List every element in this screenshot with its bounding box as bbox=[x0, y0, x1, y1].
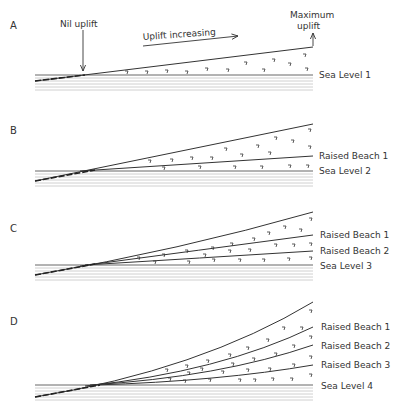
sea-level-1-label: Sea Level 1 bbox=[319, 70, 371, 80]
beach-deposit-marks bbox=[165, 310, 312, 383]
panel-letter: B bbox=[10, 125, 17, 136]
raised-beach-1-line bbox=[80, 235, 313, 266]
panel-d: D Raised Beach 1 Raised Beach 2 Raised B… bbox=[10, 302, 390, 400]
raised-beach-1-line bbox=[85, 327, 313, 386]
raised-beach-2-label: Raised Beach 2 bbox=[320, 246, 389, 256]
raised-beach-1-line bbox=[80, 156, 313, 171]
land-surface-line bbox=[35, 124, 313, 181]
maximum-uplift-label-2: uplift bbox=[297, 21, 320, 31]
sea-hatching bbox=[35, 268, 313, 280]
panel-letter: A bbox=[10, 20, 17, 31]
sea-level-4-label: Sea Level 4 bbox=[321, 381, 373, 391]
beach-deposit-marks bbox=[148, 129, 311, 170]
panel-letter: D bbox=[10, 316, 18, 327]
raised-beach-2-label: Raised Beach 2 bbox=[321, 341, 390, 351]
sea-hatching bbox=[35, 174, 313, 186]
panel-letter: C bbox=[10, 223, 17, 234]
raised-beach-2-line bbox=[85, 251, 313, 265]
raised-beach-1-label: Raised Beach 1 bbox=[320, 230, 389, 240]
land-surface-line bbox=[35, 302, 313, 397]
panel-c: C Raised Beach 1 Raised Beach 2 Sea Leve… bbox=[10, 212, 389, 280]
panel-a: A Nil uplift Uplift increasing Maximum u… bbox=[10, 10, 371, 90]
panel-b: B Raised Beach 1 Sea Level 2 bbox=[10, 124, 388, 186]
beach-deposit-marks bbox=[125, 54, 308, 74]
maximum-uplift-label-1: Maximum bbox=[290, 10, 334, 20]
raised-beach-1-label: Raised Beach 1 bbox=[321, 322, 390, 332]
sea-hatching bbox=[35, 78, 313, 90]
diagram-canvas: A Nil uplift Uplift increasing Maximum u… bbox=[0, 0, 408, 417]
beach-deposit-marks bbox=[137, 218, 312, 264]
nil-uplift-label: Nil uplift bbox=[60, 19, 98, 29]
raised-beach-1-label: Raised Beach 1 bbox=[319, 151, 388, 161]
raised-beach-3-label: Raised Beach 3 bbox=[321, 360, 390, 370]
land-surface-line bbox=[35, 212, 313, 275]
sea-level-3-label: Sea Level 3 bbox=[320, 261, 372, 271]
sea-level-2-label: Sea Level 2 bbox=[319, 166, 371, 176]
